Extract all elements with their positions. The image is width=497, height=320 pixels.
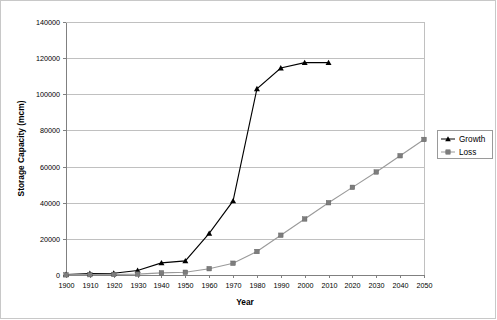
- datapoint-loss-1950: [183, 270, 188, 275]
- x-tick-label-2030: 2030: [369, 281, 385, 290]
- x-tick-label-2040: 2040: [393, 281, 409, 290]
- chart-canvas: 0200004000060000800001000001200001400001…: [0, 0, 497, 320]
- x-tick-label-1950: 1950: [178, 281, 194, 290]
- y-tick-label-100000: 100000: [36, 90, 60, 99]
- x-tick-label-1920: 1920: [107, 281, 123, 290]
- x-tick-label-2050: 2050: [417, 281, 433, 290]
- y-axis-title: Storage Capacity (mcm): [16, 100, 26, 196]
- datapoint-loss-1900: [64, 273, 69, 278]
- datapoint-loss-2030: [374, 170, 379, 175]
- x-tick-label-2000: 2000: [298, 281, 314, 290]
- y-tick-label-140000: 140000: [36, 18, 60, 27]
- datapoint-loss-1990: [279, 233, 284, 238]
- datapoint-loss-1980: [255, 249, 260, 254]
- datapoint-loss-1970: [231, 261, 236, 266]
- y-tick-label-40000: 40000: [40, 199, 60, 208]
- x-tick-label-1970: 1970: [226, 281, 242, 290]
- y-tick-label-20000: 20000: [40, 235, 60, 244]
- datapoint-loss-2000: [302, 217, 307, 222]
- x-tick-label-2020: 2020: [345, 281, 361, 290]
- x-tick-label-1980: 1980: [250, 281, 266, 290]
- datapoint-loss-2020: [350, 185, 355, 190]
- x-tick-label-1900: 1900: [59, 281, 75, 290]
- datapoint-loss-1910: [88, 272, 93, 277]
- y-tick-label-60000: 60000: [40, 163, 60, 172]
- datapoint-loss-1930: [135, 272, 140, 277]
- y-tick-label-80000: 80000: [40, 126, 60, 135]
- legend-label-loss: Loss: [459, 148, 476, 157]
- x-tick-label-1960: 1960: [202, 281, 218, 290]
- datapoint-loss-2040: [398, 153, 403, 158]
- x-tick-label-2010: 2010: [322, 281, 338, 290]
- legend-label-growth: Growth: [459, 135, 486, 144]
- x-tick-label-1940: 1940: [154, 281, 170, 290]
- datapoint-growth-1970: [230, 198, 236, 203]
- x-axis-title: Year: [236, 297, 254, 307]
- datapoint-loss-2050: [422, 137, 427, 142]
- y-tick-label-0: 0: [56, 271, 60, 280]
- series-line-loss: [66, 139, 424, 274]
- legend-marker-loss: [446, 150, 450, 154]
- x-tick-label-1910: 1910: [83, 281, 99, 290]
- storage-capacity-line-chart: 0200004000060000800001000001200001400001…: [0, 0, 497, 320]
- datapoint-loss-1940: [159, 271, 164, 276]
- datapoint-loss-1960: [207, 266, 212, 271]
- datapoint-loss-2010: [326, 200, 331, 205]
- y-tick-label-120000: 120000: [36, 54, 60, 63]
- x-tick-label-1930: 1930: [131, 281, 147, 290]
- x-tick-label-1990: 1990: [274, 281, 290, 290]
- datapoint-loss-1920: [111, 272, 116, 277]
